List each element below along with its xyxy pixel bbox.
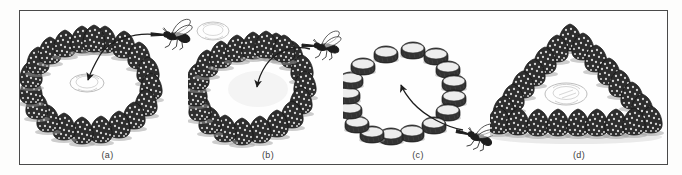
panel-b-label: (b) — [188, 150, 348, 160]
wasp-a — [151, 19, 192, 49]
panel-a-label: (a) — [20, 150, 195, 160]
panel-c-label: (c) — [343, 150, 493, 160]
panel-b: (b) — [188, 11, 348, 166]
displaced-nest-b — [197, 22, 229, 40]
wasp-nest-d — [545, 83, 587, 105]
cone-ring-a — [20, 25, 164, 147]
panel-d-illustration — [490, 11, 668, 166]
figure-root: (a) — [0, 0, 682, 175]
panel-a: (a) — [20, 11, 195, 166]
wasp-nest-a — [70, 74, 104, 92]
cone-triangle-d — [490, 24, 664, 139]
panel-c: (c) — [343, 11, 493, 166]
wasp-b — [302, 31, 341, 60]
panel-c-illustration — [343, 11, 493, 166]
wasp-c — [453, 117, 493, 153]
panel-d: (d) — [490, 11, 668, 166]
panel-b-illustration — [188, 11, 348, 166]
figure-border: (a) — [19, 10, 668, 165]
empty-circle-centre-b — [228, 71, 288, 107]
panel-d-label: (d) — [490, 150, 668, 160]
panel-a-illustration — [20, 11, 195, 166]
